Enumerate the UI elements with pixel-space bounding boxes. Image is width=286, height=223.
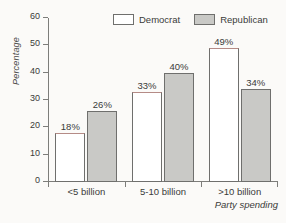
y-tick-label: 60 <box>30 11 40 21</box>
bar-value-label: 33% <box>137 80 156 91</box>
y-axis-title: Percentage <box>11 29 21 93</box>
x-tick <box>277 182 278 187</box>
y-tick: 10 <box>43 154 48 155</box>
y-tick-label: 0 <box>35 175 40 185</box>
y-tick-label: 10 <box>30 148 40 158</box>
bar-democrat-2: 49% <box>209 48 239 182</box>
x-axis-title: Party spending <box>215 199 278 210</box>
bar-republican-2: 34% <box>241 89 271 182</box>
plot-area: 0102030405060 18%26%33%40%49%34% <box>48 18 278 182</box>
x-tick <box>201 182 202 187</box>
bar-democrat-1: 33% <box>132 92 162 182</box>
bar-republican-1: 40% <box>164 73 194 182</box>
bar-democrat-0: 18% <box>55 133 85 182</box>
bar-value-label: 49% <box>214 36 233 47</box>
y-tick: 60 <box>43 17 48 18</box>
x-tick <box>48 182 49 187</box>
x-category-label: >10 billion <box>218 186 261 197</box>
x-tick <box>125 182 126 187</box>
y-tick-label: 30 <box>30 93 40 103</box>
bar-republican-0: 26% <box>87 111 117 182</box>
y-tick: 50 <box>43 44 48 45</box>
y-tick-label: 20 <box>30 120 40 130</box>
y-tick: 20 <box>43 126 48 127</box>
bar-chart: Democrat Republican Percentage 010203040… <box>0 0 286 223</box>
y-axis-line <box>48 18 49 182</box>
x-category-label: 5-10 billion <box>140 186 186 197</box>
y-tick: 40 <box>43 72 48 73</box>
bar-value-label: 40% <box>169 61 188 72</box>
x-category-label: <5 billion <box>67 186 105 197</box>
y-tick: 30 <box>43 99 48 100</box>
y-tick-label: 50 <box>30 38 40 48</box>
bar-value-label: 26% <box>93 99 112 110</box>
y-tick-label: 40 <box>30 66 40 76</box>
bar-value-label: 18% <box>61 121 80 132</box>
bar-value-label: 34% <box>246 77 265 88</box>
